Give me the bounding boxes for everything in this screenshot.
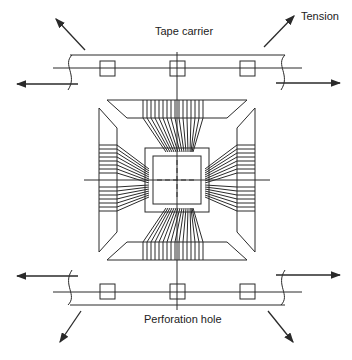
tension-arrows xyxy=(17,16,340,342)
right-leads xyxy=(205,145,255,211)
tape-carrier-diagram xyxy=(0,0,352,360)
arrow-icon xyxy=(60,311,81,342)
left-leads xyxy=(99,145,149,211)
arrow-icon xyxy=(56,19,85,50)
arrow-icon xyxy=(268,311,293,342)
arrow-icon xyxy=(264,16,294,47)
bottom-leads xyxy=(143,208,203,260)
top-leads xyxy=(143,100,203,152)
